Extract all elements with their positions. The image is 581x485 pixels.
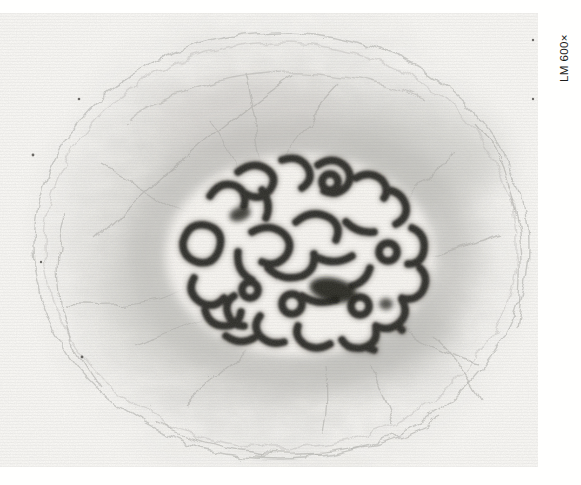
micrograph-figure: LM 600× [0, 0, 581, 485]
photo-grain [0, 13, 538, 467]
micrograph-photo [0, 0, 581, 485]
page: LM 600× [0, 0, 581, 485]
magnification-label: LM 600× [558, 34, 570, 82]
